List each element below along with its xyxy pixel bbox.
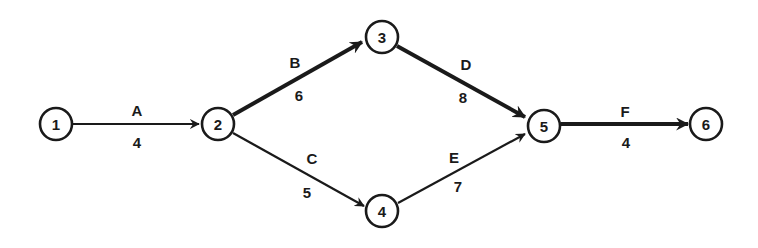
node-2-label: 2 <box>214 116 222 133</box>
edge-D-duration: 8 <box>459 89 467 106</box>
edge-F-activity: F <box>620 103 629 120</box>
edge-A: A 4 <box>73 102 199 151</box>
edge-F: F 4 <box>561 103 688 151</box>
node-6: 6 <box>690 108 722 140</box>
node-6-label: 6 <box>702 116 710 133</box>
node-4-label: 4 <box>378 203 387 220</box>
node-5-label: 5 <box>540 118 548 135</box>
node-1-label: 1 <box>52 116 60 133</box>
edge-B-duration: 6 <box>295 87 303 104</box>
node-3-label: 3 <box>378 29 386 46</box>
edge-D: D 8 <box>397 46 525 117</box>
node-2: 2 <box>202 108 234 140</box>
edge-C: C 5 <box>233 133 364 206</box>
edge-C-activity: C <box>307 150 318 167</box>
edge-B-activity: B <box>290 54 301 71</box>
edge-F-duration: 4 <box>622 134 631 151</box>
edge-A-activity: A <box>132 102 143 119</box>
edge-A-duration: 4 <box>133 134 142 151</box>
node-5: 5 <box>528 110 560 142</box>
node-3: 3 <box>366 21 398 53</box>
edge-D-activity: D <box>461 56 472 73</box>
edge-E: E 7 <box>398 134 525 203</box>
node-4: 4 <box>366 195 398 227</box>
edge-E-activity: E <box>449 149 459 166</box>
edge-E-duration: 7 <box>454 178 462 195</box>
edge-C-duration: 5 <box>303 184 311 201</box>
network-diagram: A 4 B 6 C 5 D 8 E 7 F 4 1 2 3 4 <box>0 0 758 248</box>
edge-B: B 6 <box>233 42 362 115</box>
node-1: 1 <box>40 108 72 140</box>
